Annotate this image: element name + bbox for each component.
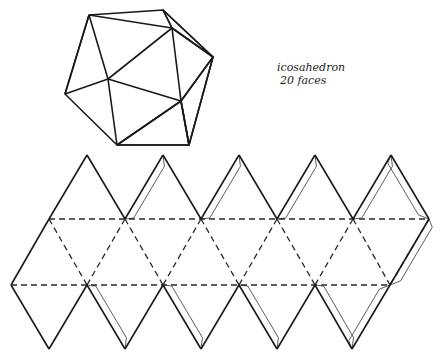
edge <box>181 101 189 145</box>
cut-edge <box>315 155 353 219</box>
icosahedron-diagram <box>0 0 447 364</box>
figure-title: icosahedron <box>277 61 345 74</box>
cut-edge <box>353 155 391 219</box>
cut-lines <box>11 155 429 349</box>
face-count-label: 20 faces <box>280 74 326 87</box>
edge <box>108 28 172 79</box>
fold-lines <box>11 219 429 285</box>
edge <box>89 15 172 28</box>
edge <box>108 79 181 101</box>
cut-edge <box>315 285 352 349</box>
fold-diagonal <box>49 219 87 285</box>
edge <box>65 15 89 94</box>
cut-edge <box>163 285 201 349</box>
cut-edge <box>125 155 163 219</box>
fold-diagonal <box>239 219 277 285</box>
cut-edge <box>87 155 125 219</box>
edge <box>117 101 181 145</box>
edge <box>163 10 172 28</box>
edge <box>108 79 117 145</box>
diagram-canvas: icosahedron 20 faces <box>0 0 447 364</box>
cut-edge <box>239 285 277 349</box>
fold-diagonal <box>315 219 353 285</box>
fold-diagonal <box>125 219 163 285</box>
edge <box>172 28 213 57</box>
cut-edge <box>277 285 315 349</box>
cut-edge <box>49 285 87 349</box>
cut-edge <box>11 285 49 349</box>
cut-edge <box>201 155 239 219</box>
cut-edge-right <box>390 219 429 285</box>
cut-edge <box>277 155 315 219</box>
fold-diagonal <box>277 219 315 285</box>
cut-edge <box>391 155 429 219</box>
outline-edge <box>65 10 213 145</box>
fold-diagonal <box>87 219 125 285</box>
fold-diagonal <box>201 219 239 285</box>
edge <box>172 28 181 101</box>
cut-edge <box>201 285 239 349</box>
edge <box>89 15 108 79</box>
edge <box>65 79 108 94</box>
cut-edge <box>87 285 125 349</box>
edge <box>181 57 213 101</box>
fold-diagonal <box>353 219 390 285</box>
cut-edge <box>352 285 390 349</box>
fold-diagonal <box>163 219 201 285</box>
cut-edge <box>239 155 277 219</box>
cut-edge-left <box>11 219 49 285</box>
cut-edge <box>125 285 163 349</box>
cut-edge <box>49 155 87 219</box>
icosahedron-3d-view <box>65 10 213 145</box>
cut-edge <box>163 155 201 219</box>
